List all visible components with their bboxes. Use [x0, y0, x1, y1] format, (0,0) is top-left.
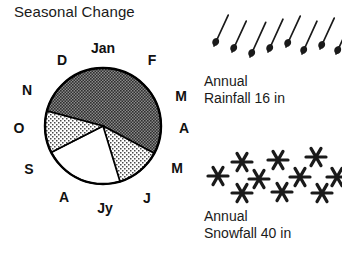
raindrop-svg — [196, 2, 342, 64]
snowflake-icon — [208, 167, 228, 184]
raindrop-icon — [317, 16, 336, 50]
snowflake-icon — [249, 170, 269, 187]
snowfall-caption: Annual Snowfall 40 in — [204, 208, 291, 242]
snowflake-icon — [272, 183, 292, 200]
month-label-dec: D — [57, 52, 67, 68]
raindrop-icon — [265, 17, 285, 53]
raindrop-icon — [283, 14, 302, 48]
month-label-apr: A — [179, 120, 189, 136]
snowfall-icon-group — [196, 136, 342, 202]
snowflake-icon — [232, 153, 252, 170]
rainfall-caption: Annual Rainfall 16 in — [204, 73, 285, 107]
month-label-oct: O — [14, 120, 25, 136]
raindrop-icon — [211, 13, 230, 47]
month-label-jun: J — [143, 190, 151, 206]
month-label-mar: M — [175, 88, 187, 104]
month-label-jul: Jy — [97, 200, 113, 216]
raindrop-icon — [229, 19, 248, 53]
month-label-sep: S — [24, 161, 33, 177]
month-label-nov: N — [22, 82, 32, 98]
raindrop-icon — [247, 21, 267, 59]
raindrop-icon — [299, 19, 319, 55]
raindrop-icon — [333, 21, 342, 55]
snowflake-icon — [312, 184, 332, 201]
snowflake-icon — [290, 168, 310, 185]
month-label-may: M — [171, 160, 183, 176]
snowflake-icon — [306, 148, 326, 165]
pie-chart-container: JanFMAMJJyASOND — [0, 24, 195, 229]
snowflake-icon — [327, 168, 342, 185]
month-label-aug: A — [59, 189, 69, 205]
page-title: Seasonal Change — [14, 3, 135, 20]
snowflake-icon — [232, 184, 252, 201]
month-label-feb: F — [148, 52, 157, 68]
rainfall-icon-group — [196, 2, 342, 64]
month-label-jan: Jan — [91, 40, 115, 56]
snowflake-svg — [196, 136, 342, 202]
seasonal-change-figure: Seasonal Change JanFMAMJJyASOND — [0, 0, 342, 254]
snowflake-icon — [268, 151, 288, 168]
